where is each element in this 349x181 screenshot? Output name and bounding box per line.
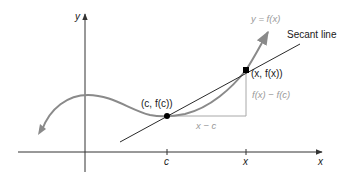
curve-label: y = f(x) (250, 13, 280, 24)
rise-label: f(x) − f(c) (252, 89, 290, 100)
run-label: x − c (195, 120, 217, 131)
curve-f (42, 32, 268, 130)
x-axis-label: x (317, 156, 324, 167)
tick-x-label: x (242, 156, 249, 167)
point-x (243, 67, 249, 73)
point-c (164, 113, 170, 119)
point-c-label: (c, f(c)) (141, 98, 173, 109)
point-x-label: (x, f(x)) (251, 68, 283, 79)
secant-line-diagram: y x c x y = f(x) Secant line (x, f(x)) (… (0, 0, 349, 181)
y-axis-label: y (74, 11, 81, 22)
rise-run-triangle (167, 70, 246, 116)
secant-label: Secant line (287, 29, 337, 40)
tick-c-label: c (164, 156, 169, 167)
